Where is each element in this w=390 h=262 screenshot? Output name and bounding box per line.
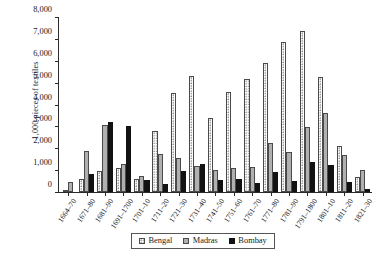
x-tick-label: 1664–70 bbox=[56, 197, 78, 224]
bar-group bbox=[114, 18, 132, 192]
chart-figure: 1,000 pieces of textiles 01,0002,0003,00… bbox=[0, 0, 390, 262]
bar-group bbox=[298, 18, 316, 192]
bar-group bbox=[280, 18, 298, 192]
bar-group bbox=[169, 18, 187, 192]
y-tick-label: 5,000 bbox=[6, 70, 58, 79]
bar-group bbox=[206, 18, 224, 192]
bar-group bbox=[96, 18, 114, 192]
x-tick-label: 1751–60 bbox=[222, 197, 244, 224]
y-tick-mark bbox=[55, 17, 59, 18]
legend-item-bengal: Bengal bbox=[139, 236, 172, 245]
bar-group bbox=[225, 18, 243, 192]
bar-bombay[interactable] bbox=[89, 174, 94, 192]
bar-bombay[interactable] bbox=[292, 181, 297, 192]
y-tick-label: 6,000 bbox=[6, 48, 58, 57]
bar-bombay[interactable] bbox=[200, 164, 205, 192]
legend-swatch-madras-icon bbox=[183, 238, 189, 244]
bar-bombay[interactable] bbox=[328, 165, 333, 192]
legend-label-madras: Madras bbox=[193, 236, 218, 245]
chart-legend: Bengal Madras Bombay bbox=[131, 233, 275, 249]
x-label-cell: 1811–20 bbox=[335, 196, 353, 240]
y-tick-label: 0 bbox=[6, 180, 58, 189]
bar-group bbox=[133, 18, 151, 192]
bar-groups bbox=[59, 18, 372, 192]
y-tick-label: 7,000 bbox=[6, 26, 58, 35]
y-tick-mark bbox=[55, 39, 59, 40]
y-tick-mark bbox=[55, 192, 59, 193]
bar-group bbox=[243, 18, 261, 192]
x-label-cell: 1821–30 bbox=[354, 196, 372, 240]
x-label-cell: 1664–70 bbox=[58, 196, 76, 240]
bar-group bbox=[317, 18, 335, 192]
bar-bombay[interactable] bbox=[163, 184, 168, 192]
bar-madras[interactable] bbox=[68, 182, 73, 192]
bar-bombay[interactable] bbox=[365, 189, 370, 192]
legend-label-bombay: Bombay bbox=[238, 236, 266, 245]
bar-bombay[interactable] bbox=[181, 171, 186, 192]
bar-group bbox=[151, 18, 169, 192]
bar-bombay[interactable] bbox=[126, 126, 131, 192]
legend-item-madras: Madras bbox=[183, 236, 218, 245]
y-tick-mark bbox=[55, 148, 59, 149]
bar-group bbox=[261, 18, 279, 192]
y-tick-label: 4,000 bbox=[6, 92, 58, 101]
bar-group bbox=[77, 18, 95, 192]
x-tick-label: 1771–80 bbox=[259, 197, 281, 224]
bar-group bbox=[59, 18, 77, 192]
y-tick-label: 3,000 bbox=[6, 114, 58, 123]
plot-area: 01,0002,0003,0004,0005,0006,0007,0008,00… bbox=[58, 18, 372, 193]
y-tick-label: 8,000 bbox=[6, 5, 58, 14]
y-tick-mark bbox=[55, 61, 59, 62]
bar-bombay[interactable] bbox=[347, 182, 352, 192]
bar-bombay[interactable] bbox=[236, 179, 241, 192]
bar-group bbox=[335, 18, 353, 192]
x-tick-label: 1821–30 bbox=[352, 197, 374, 224]
x-tick-label: 1721–30 bbox=[167, 197, 189, 224]
bar-bombay[interactable] bbox=[310, 162, 315, 192]
legend-item-bombay: Bombay bbox=[229, 236, 267, 245]
legend-swatch-bengal-icon bbox=[139, 238, 145, 244]
bar-bombay[interactable] bbox=[255, 183, 260, 192]
y-tick-label: 2,000 bbox=[6, 136, 58, 145]
bar-bombay[interactable] bbox=[218, 180, 223, 192]
legend-swatch-bombay-icon bbox=[229, 238, 235, 244]
y-tick-label: 1,000 bbox=[6, 158, 58, 167]
y-tick-mark bbox=[55, 126, 59, 127]
legend-label-bengal: Bengal bbox=[149, 236, 173, 245]
y-tick-mark bbox=[55, 105, 59, 106]
bar-group bbox=[188, 18, 206, 192]
x-tick-label: 1701–10 bbox=[130, 197, 152, 224]
x-label-cell: 1681–90 bbox=[95, 196, 113, 240]
bar-bombay[interactable] bbox=[108, 122, 113, 192]
x-label-cell: 1781–90 bbox=[280, 196, 298, 240]
x-tick-label: 1801–10 bbox=[315, 197, 337, 224]
bar-bombay[interactable] bbox=[273, 172, 278, 192]
y-tick-mark bbox=[55, 170, 59, 171]
bar-group bbox=[354, 18, 372, 192]
x-label-cell: 1791–1800 bbox=[298, 196, 316, 240]
y-tick-mark bbox=[55, 83, 59, 84]
bar-bombay[interactable] bbox=[144, 180, 149, 192]
